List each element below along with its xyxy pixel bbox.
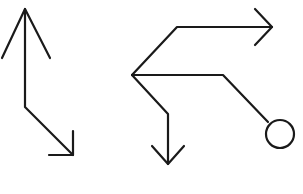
right-branching-figure <box>132 9 294 164</box>
lower-branch-down-arrow-line <box>132 75 168 164</box>
diagram-canvas <box>0 0 303 194</box>
left-bent-arrow <box>2 9 73 155</box>
upper-branch-right-arrow-line <box>132 27 272 75</box>
diagram-svg <box>0 0 303 194</box>
bent-line <box>25 9 73 155</box>
terminal-circle-icon <box>266 120 294 148</box>
